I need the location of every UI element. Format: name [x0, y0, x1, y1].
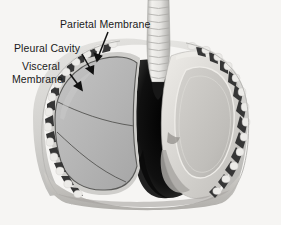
- label-pleural-cavity: Pleural Cavity: [14, 42, 80, 55]
- label-parietal-membrane: Parietal Membrane: [60, 18, 150, 31]
- anatomy-figure: Parietal Membrane Pleural Cavity Viscera…: [0, 0, 281, 225]
- label-visceral-membrane: Visceral Membrane: [22, 60, 63, 85]
- lung-diagram-svg: [0, 0, 281, 225]
- label-visceral-line2: Membrane: [12, 73, 63, 86]
- label-visceral-line1: Visceral: [22, 60, 60, 72]
